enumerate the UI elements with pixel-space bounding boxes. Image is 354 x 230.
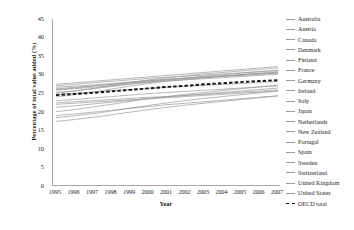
legend-label: Canada	[298, 37, 316, 43]
legend-swatch-icon	[286, 203, 295, 204]
x-axis-title: Year	[52, 200, 280, 207]
y-tick-25: 25	[22, 90, 44, 96]
series-lines	[53, 19, 280, 186]
legend-label: Sweden	[298, 160, 317, 166]
legend-item[interactable]: New Zealand	[286, 127, 354, 137]
legend-swatch-icon	[286, 152, 295, 153]
legend-item[interactable]: Italy	[286, 96, 354, 106]
legend-item[interactable]: Austria	[286, 24, 354, 34]
legend-item[interactable]: Sweden	[286, 158, 354, 168]
legend-item[interactable]: Japan	[286, 106, 354, 116]
line-chart: Percentage of total value added (%) 4540…	[0, 0, 354, 230]
legend: AustraliaAustriaCanadaDenmarkFinlandFran…	[286, 14, 354, 209]
y-tick-5: 5	[22, 164, 44, 170]
y-tick-20: 20	[22, 109, 44, 115]
y-tick-45: 45	[22, 16, 44, 22]
legend-label: United Kingdom	[298, 180, 339, 186]
legend-swatch-icon	[286, 49, 295, 50]
legend-label: Ireland	[298, 88, 315, 94]
legend-item[interactable]: Australia	[286, 14, 354, 24]
legend-label: Japan	[298, 108, 312, 114]
legend-item[interactable]: Denmark	[286, 45, 354, 55]
legend-label: Germany	[298, 78, 321, 84]
legend-label: United States	[298, 190, 331, 196]
legend-item[interactable]: Germany	[286, 76, 354, 86]
legend-label: Italy	[298, 98, 309, 104]
series-line	[56, 96, 278, 122]
legend-swatch-icon	[286, 183, 295, 184]
legend-label: Switzerland	[298, 170, 327, 176]
y-tick-10: 10	[22, 146, 44, 152]
legend-label: Australia	[298, 16, 320, 22]
legend-label: Finland	[298, 57, 317, 63]
y-tick-35: 35	[22, 53, 44, 59]
legend-item[interactable]: OECD total	[286, 199, 354, 209]
legend-item[interactable]: Netherlands	[286, 117, 354, 127]
legend-swatch-icon	[286, 60, 295, 61]
legend-swatch-icon	[286, 193, 295, 194]
y-tick-15: 15	[22, 127, 44, 133]
legend-label: Denmark	[298, 47, 321, 53]
legend-label: Spain	[298, 149, 312, 155]
legend-item[interactable]: Canada	[286, 35, 354, 45]
legend-swatch-icon	[286, 172, 295, 173]
legend-item[interactable]: United Kingdom	[286, 178, 354, 188]
legend-swatch-icon	[286, 19, 295, 20]
legend-swatch-icon	[286, 162, 295, 163]
y-tick-30: 30	[22, 71, 44, 77]
legend-label: Austria	[298, 26, 316, 32]
legend-item[interactable]: United States	[286, 188, 354, 198]
legend-swatch-icon	[286, 70, 295, 71]
legend-label: Netherlands	[298, 119, 327, 125]
legend-swatch-icon	[286, 80, 295, 81]
plot-area	[52, 19, 280, 186]
series-line	[56, 96, 278, 116]
legend-swatch-icon	[286, 121, 295, 122]
legend-item[interactable]: Spain	[286, 147, 354, 157]
legend-swatch-icon	[286, 131, 295, 132]
y-tick-0: 0	[22, 183, 44, 189]
legend-item[interactable]: France	[286, 65, 354, 75]
y-tick-40: 40	[22, 34, 44, 40]
legend-item[interactable]: Switzerland	[286, 168, 354, 178]
legend-item[interactable]: Ireland	[286, 86, 354, 96]
legend-item[interactable]: Finland	[286, 55, 354, 65]
legend-label: New Zealand	[298, 129, 331, 135]
series-line	[56, 91, 278, 104]
legend-swatch-icon	[286, 90, 295, 91]
legend-swatch-icon	[286, 39, 295, 40]
legend-swatch-icon	[286, 29, 295, 30]
legend-label: OECD total	[298, 201, 327, 207]
legend-swatch-icon	[286, 101, 295, 102]
legend-label: France	[298, 67, 315, 73]
legend-label: Portugal	[298, 139, 319, 145]
legend-item[interactable]: Portugal	[286, 137, 354, 147]
legend-swatch-icon	[286, 142, 295, 143]
legend-swatch-icon	[286, 111, 295, 112]
